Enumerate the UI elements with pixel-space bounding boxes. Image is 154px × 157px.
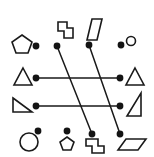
edge-group bbox=[36, 45, 120, 134]
node-dot-bottom-midright bbox=[89, 131, 96, 138]
shape-node-diagram bbox=[0, 0, 154, 157]
node-dot-row2-right bbox=[117, 75, 124, 82]
small-pentagon-shape bbox=[60, 137, 74, 150]
flat-parallelogram-shape bbox=[118, 139, 146, 150]
node-dot-top-left bbox=[86, 42, 93, 49]
small-circle-shape bbox=[127, 37, 136, 46]
slanted-parallelogram-shape bbox=[87, 19, 102, 40]
node-dot-row2-left bbox=[33, 75, 40, 82]
node-dot-bottom-right bbox=[117, 131, 124, 138]
node-dot-top-right bbox=[33, 43, 40, 50]
edge-diagonal-right bbox=[89, 45, 120, 134]
figure-canvas bbox=[0, 0, 154, 157]
large-circle-shape bbox=[20, 133, 38, 151]
node-dot-top-mid bbox=[118, 42, 125, 49]
triangle-up-shape-right bbox=[126, 68, 144, 85]
node-dot-bottom-mid bbox=[64, 128, 71, 135]
shape-group bbox=[12, 19, 146, 153]
node-dot-bottom-left bbox=[35, 128, 42, 135]
node-dot-row3-left bbox=[33, 103, 40, 110]
node-group bbox=[33, 42, 125, 138]
edge-diagonal-left bbox=[57, 46, 92, 134]
triangle-up-shape-left bbox=[14, 68, 32, 85]
node-dot-row3-right bbox=[117, 103, 124, 110]
right-triangle-shape-right bbox=[127, 93, 141, 116]
right-triangle-shape-left bbox=[13, 98, 32, 112]
node-dot-row1-left bbox=[54, 43, 61, 50]
s-tetromino-shape-bottom bbox=[86, 139, 104, 153]
pentagon-shape bbox=[12, 35, 32, 53]
s-tetromino-shape-top bbox=[58, 22, 73, 38]
